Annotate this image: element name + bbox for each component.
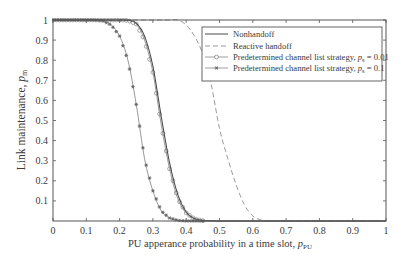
legend-label: Nonhandoff (233, 29, 275, 39)
x-tick-label: 0.4 (180, 225, 193, 236)
y-tick-label: 0.7 (36, 75, 49, 86)
x-tick-label: 0.6 (247, 225, 260, 236)
legend-label: Reactive handoff (233, 41, 292, 51)
chart-canvas: 00.10.20.30.40.50.60.70.80.910.10.20.30.… (0, 0, 407, 262)
y-tick-label: 0.8 (36, 55, 49, 66)
x-axis-label-subscript: PU (303, 243, 312, 251)
circle-marker-icon (215, 55, 219, 59)
x-tick-label: 0.3 (147, 225, 160, 236)
legend-label: Predetermined channel list strategy, ps … (233, 63, 384, 74)
x-axis-label-text: PU apperance probability in a time slot, (128, 238, 298, 249)
y-tick-label: 0.5 (36, 115, 49, 126)
y-tick-label: 0.4 (36, 135, 49, 146)
x-tick-label: 0 (51, 225, 56, 236)
y-tick-label: 1 (43, 15, 48, 26)
y-axis-label-subscript: m (20, 69, 29, 76)
x-tick-label: 0.1 (80, 225, 93, 236)
y-tick-label: 0.1 (36, 195, 49, 206)
y-axis-label-text: Link maintenance, (15, 82, 28, 170)
y-tick-label: 0.2 (36, 175, 49, 186)
x-tick-label: 1 (384, 225, 389, 236)
x-tick-label: 0.2 (113, 225, 126, 236)
legend: Nonhandoff Reactive handoff Predetermine… (202, 27, 389, 81)
x-tick-label: 0.9 (346, 225, 359, 236)
x-tick-label: 0.7 (280, 225, 293, 236)
y-tick-label: 0.3 (36, 155, 49, 166)
line-chart: 00.10.20.30.40.50.60.70.80.910.10.20.30.… (0, 0, 407, 262)
y-tick-label: 0.6 (36, 95, 49, 106)
legend-label: Predetermined channel list strategy, ps … (233, 52, 389, 63)
legend-item-ps-0.01: Predetermined channel list strategy, ps … (205, 52, 389, 63)
y-axis-label: Link maintenance, pm (15, 69, 29, 170)
x-tick-label: 0.8 (313, 225, 326, 236)
x-tick-label: 0.5 (213, 225, 226, 236)
y-tick-label: 0.9 (36, 35, 49, 46)
